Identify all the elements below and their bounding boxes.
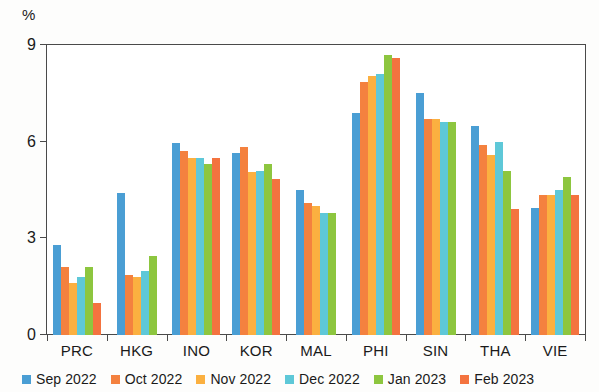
chart-legend: Sep 2022Oct 2022Nov 2022Dec 2022Jan 2023… — [22, 369, 599, 389]
x-axis-label-sin: SIN — [423, 342, 449, 359]
legend-label: Nov 2022 — [210, 371, 271, 387]
bar-ino-nov-2022 — [188, 158, 196, 335]
x-tick-ino — [167, 335, 168, 341]
bar-group-mal — [286, 45, 346, 335]
legend-swatch-icon — [196, 375, 205, 384]
x-tick-mal — [286, 335, 287, 341]
y-tick-label-3: 3 — [10, 229, 36, 247]
bar-ino-feb-2023 — [212, 158, 220, 335]
legend-item-jan-2023[interactable]: Jan 2023 — [374, 371, 446, 387]
bar-hkg-oct-2022 — [125, 275, 133, 335]
x-axis-label-prc: PRC — [61, 342, 93, 359]
legend-label: Dec 2022 — [299, 371, 360, 387]
bar-kor-nov-2022 — [248, 172, 256, 335]
y-tick-0 — [40, 334, 47, 335]
bar-vie-oct-2022 — [539, 195, 547, 335]
bar-prc-feb-2023 — [93, 303, 101, 335]
bar-phi-feb-2023 — [392, 58, 400, 335]
legend-label: Jan 2023 — [388, 371, 446, 387]
y-axis-unit-label: % — [22, 6, 36, 23]
legend-swatch-icon — [22, 375, 31, 384]
bar-group-kor — [226, 45, 286, 335]
bar-prc-sep-2022 — [53, 245, 61, 335]
x-tick-phi — [346, 335, 347, 341]
y-tick-label-0: 0 — [10, 326, 36, 344]
bar-prc-nov-2022 — [69, 283, 77, 335]
x-tick-kor — [226, 335, 227, 341]
bar-hkg-jan-2023 — [149, 256, 157, 335]
y-tick-3 — [40, 237, 47, 238]
x-axis-label-ino: INO — [183, 342, 210, 359]
y-tick-6 — [40, 141, 47, 142]
bar-sin-oct-2022 — [424, 119, 432, 335]
legend-item-sep-2022[interactable]: Sep 2022 — [22, 371, 97, 387]
bar-ino-jan-2023 — [204, 164, 212, 335]
x-axis-label-tha: THA — [480, 342, 511, 359]
x-tick-hkg — [107, 335, 108, 341]
bar-tha-oct-2022 — [479, 145, 487, 335]
bar-group-prc — [47, 45, 107, 335]
legend-label: Feb 2023 — [474, 371, 534, 387]
bar-group-vie — [525, 45, 585, 335]
legend-item-oct-2022[interactable]: Oct 2022 — [111, 371, 183, 387]
bar-group-sin — [406, 45, 466, 335]
y-tick-label-9: 9 — [10, 36, 36, 54]
x-tick-sin — [406, 335, 407, 341]
bar-phi-dec-2022 — [376, 74, 384, 335]
x-tick-end — [585, 335, 586, 341]
bar-kor-oct-2022 — [240, 147, 248, 336]
legend-swatch-icon — [460, 375, 469, 384]
bar-vie-nov-2022 — [547, 195, 555, 335]
bar-hkg-nov-2022 — [133, 277, 141, 335]
bar-kor-sep-2022 — [232, 153, 240, 335]
x-axis-label-phi: PHI — [363, 342, 389, 359]
bar-ino-sep-2022 — [172, 143, 180, 335]
legend-swatch-icon — [374, 375, 383, 384]
legend-item-feb-2023[interactable]: Feb 2023 — [460, 371, 534, 387]
bar-mal-oct-2022 — [304, 203, 312, 335]
legend-swatch-icon — [111, 375, 120, 384]
x-tick-tha — [465, 335, 466, 341]
x-axis-label-hkg: HKG — [120, 342, 153, 359]
bar-hkg-sep-2022 — [117, 193, 125, 335]
bar-vie-sep-2022 — [531, 208, 539, 335]
bar-ino-oct-2022 — [180, 151, 188, 335]
bar-kor-feb-2023 — [272, 179, 280, 335]
bar-prc-oct-2022 — [61, 267, 69, 335]
x-tick-vie — [525, 335, 526, 341]
legend-item-dec-2022[interactable]: Dec 2022 — [285, 371, 360, 387]
x-axis-label-mal: MAL — [300, 342, 331, 359]
bar-sin-nov-2022 — [432, 119, 440, 335]
legend-item-nov-2022[interactable]: Nov 2022 — [196, 371, 271, 387]
bar-sin-dec-2022 — [440, 122, 448, 335]
bar-tha-sep-2022 — [471, 126, 479, 335]
x-tick-prc — [47, 335, 48, 341]
legend-label: Sep 2022 — [36, 371, 97, 387]
bar-vie-feb-2023 — [571, 195, 579, 335]
bar-hkg-dec-2022 — [141, 271, 149, 335]
bar-prc-jan-2023 — [85, 267, 93, 335]
bar-group-tha — [465, 45, 525, 335]
bar-mal-dec-2022 — [320, 213, 328, 335]
bar-prc-dec-2022 — [77, 277, 85, 335]
bar-groups — [47, 45, 585, 335]
bar-mal-jan-2023 — [328, 213, 336, 335]
bar-phi-nov-2022 — [368, 76, 376, 335]
bar-vie-jan-2023 — [563, 177, 571, 335]
legend-label: Oct 2022 — [125, 371, 183, 387]
bar-sin-sep-2022 — [416, 93, 424, 335]
bar-group-ino — [167, 45, 227, 335]
bar-group-phi — [346, 45, 406, 335]
bar-tha-nov-2022 — [487, 155, 495, 335]
bar-sin-jan-2023 — [448, 122, 456, 335]
y-tick-9 — [40, 44, 47, 45]
bar-phi-sep-2022 — [352, 113, 360, 335]
bar-kor-jan-2023 — [264, 164, 272, 335]
bar-tha-jan-2023 — [503, 171, 511, 335]
bar-group-hkg — [107, 45, 167, 335]
bar-kor-dec-2022 — [256, 171, 264, 335]
bar-mal-sep-2022 — [296, 190, 304, 335]
bar-tha-feb-2023 — [511, 209, 519, 335]
x-axis-label-kor: KOR — [240, 342, 273, 359]
bar-tha-dec-2022 — [495, 142, 503, 335]
